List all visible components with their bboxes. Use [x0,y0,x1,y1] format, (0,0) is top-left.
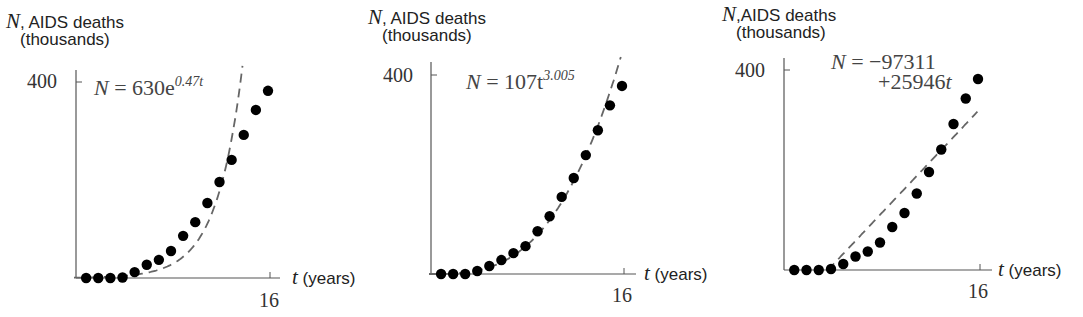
data-point [899,208,909,218]
plots-canvas [0,0,1083,317]
data-point [605,100,615,110]
data-point [863,246,873,256]
data-point [93,273,103,283]
data-point [202,198,212,208]
data-point [436,269,446,279]
data-point [544,211,554,221]
data-point [973,74,983,84]
data-point [214,177,224,187]
data-point [887,222,897,232]
data-point [166,246,176,256]
data-point [460,269,470,279]
data-point [472,266,482,276]
data-point [936,144,946,154]
data-point [117,272,127,282]
fit-curve-dashed [74,66,243,278]
data-point [226,155,236,165]
data-point [81,273,91,283]
data-point [593,125,603,135]
data-point [948,119,958,129]
data-point [801,265,811,275]
data-point [789,265,799,275]
data-point [178,231,188,241]
data-point [142,260,152,270]
data-point [826,264,836,274]
data-point [105,273,115,283]
data-point [520,241,530,251]
data-point [924,167,934,177]
data-point [581,150,591,160]
data-point [556,192,566,202]
data-point [263,86,273,96]
data-point [569,173,579,183]
data-point [448,269,458,279]
data-point [508,248,518,258]
data-point [484,261,494,271]
data-point [251,105,261,115]
data-point [239,130,249,140]
data-point [961,93,971,103]
data-point [850,251,860,261]
data-point [617,81,627,91]
data-point [496,255,506,265]
fit-curve-dashed [828,112,978,270]
data-point [912,188,922,198]
data-point [814,265,824,275]
data-point [532,226,542,236]
data-point [154,255,164,265]
data-point [875,237,885,247]
data-point [190,217,200,227]
data-point [838,259,848,269]
data-point [129,267,139,277]
